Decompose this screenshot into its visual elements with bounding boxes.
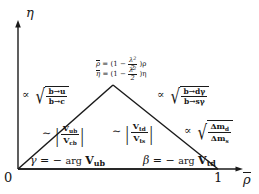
sqrt-far-right: √ Δmd Δms <box>195 120 233 143</box>
radicand-far-right: Δmd Δms <box>207 120 233 143</box>
lambda-den-2: 2 <box>128 75 137 82</box>
ratio-bdgamma-bsgamma: b→dγ b→sγ <box>181 88 207 106</box>
ratio-dmd-dms: Δmd Δms <box>208 122 231 143</box>
gamma-v: V <box>85 154 94 167</box>
angle-beta-label: β = − arg Vtd <box>143 155 216 168</box>
radical-icon-farright: √ <box>197 124 207 140</box>
annotation-far-right-lower: ∝ √ Δmd Δms <box>184 120 233 143</box>
lambda-exp-2: 2 <box>133 66 136 71</box>
angle-gamma-label: γ = − arg Vub <box>30 155 105 168</box>
ratio-bdgamma: b→dγ <box>181 88 207 97</box>
ratio-vtd-vts: Vtd Vts <box>131 122 148 143</box>
annotation-right-lower: ∼ | Vtd Vts | <box>112 122 154 143</box>
radical-icon-left: √ <box>35 88 45 104</box>
etabar-equals: = <box>102 70 108 78</box>
dms-cell: Δms <box>208 133 231 144</box>
beta-v: V <box>198 154 207 167</box>
sqrt-right-upper: √ b→dγ b→sγ <box>168 86 209 106</box>
radicand-left-upper: b→u b→c <box>45 86 69 106</box>
lambda-exp-1: 2 <box>133 56 136 61</box>
ratio-bu: b→u <box>46 88 67 97</box>
sqrt-left-upper: √ b→u b→c <box>33 86 70 106</box>
proportional-icon-left: ∝ <box>22 88 29 101</box>
proportional-icon-farright: ∝ <box>184 124 191 137</box>
gamma-v-sub: ub <box>94 159 105 168</box>
apex-formula-etabar: η = (1 − λ2 2 )η <box>96 67 147 81</box>
vtd-sub: td <box>139 126 146 132</box>
vtd-cell: Vtd <box>131 122 148 133</box>
dmd-sub: d <box>225 126 229 132</box>
annotation-right-upper: ∝ √ b→dγ b→sγ <box>157 86 209 106</box>
x-axis-label-text: ρ <box>243 172 251 186</box>
abs-bar-left-open: | <box>56 128 60 142</box>
gamma-arg: arg <box>66 155 82 166</box>
gamma-symbol: γ <box>30 154 37 167</box>
abs-bar-right-close: | <box>149 126 153 140</box>
radical-icon-right: √ <box>170 88 180 104</box>
dms-sym: Δm <box>211 133 226 143</box>
vcb-sub: cb <box>69 139 77 145</box>
beta-symbol: β <box>143 154 149 167</box>
beta-arg: arg <box>178 155 194 166</box>
proportional-icon-right: ∝ <box>157 88 164 101</box>
etabar-symbol: η <box>96 70 100 78</box>
x-tick-one: 1 <box>214 171 222 184</box>
etabar-open: (1 − <box>111 70 126 78</box>
vcb-cell: Vcb <box>61 135 79 146</box>
etabar-close: )η <box>140 70 147 78</box>
abs-bar-right-open: | <box>126 126 130 140</box>
x-axis-label: ρ <box>243 172 251 186</box>
dms-sub: s <box>225 137 228 143</box>
lambda-squared-over-two-2: λ2 2 <box>128 67 137 81</box>
vub-cell: Vub <box>61 124 79 135</box>
abs-bar-left-close: | <box>81 128 85 142</box>
dmd-sym: Δm <box>210 121 225 131</box>
gamma-equals: = − <box>40 154 62 167</box>
y-axis-label: η <box>26 6 34 19</box>
ratio-vub-vcb: Vub Vcb <box>61 124 79 145</box>
vts-cell: Vts <box>131 133 148 144</box>
annotation-left-lower: ∼ | Vub Vcb | <box>42 124 86 145</box>
x-tick-zero: 0 <box>4 171 12 184</box>
dmd-cell: Δmd <box>208 122 231 133</box>
beta-equals: = − <box>153 154 175 167</box>
ratio-bc: b→c <box>46 97 67 106</box>
similar-icon-right: ∼ <box>112 125 121 138</box>
similar-icon-left: ∼ <box>42 127 51 140</box>
y-axis <box>15 20 21 169</box>
ratio-bsgamma: b→sγ <box>181 97 207 106</box>
vts-sub: ts <box>139 137 145 143</box>
beta-v-sub: td <box>207 159 216 168</box>
radicand-right-upper: b→dγ b→sγ <box>180 86 209 106</box>
ratio-bu-bc: b→u b→c <box>46 88 67 106</box>
annotation-left-upper: ∝ √ b→u b→c <box>22 86 69 106</box>
unitarity-triangle-figure: η ρ 0 1 ρ = (1 − λ2 2 )ρ η = (1 − λ2 2 )… <box>0 0 259 194</box>
vub-sub: ub <box>69 128 77 134</box>
